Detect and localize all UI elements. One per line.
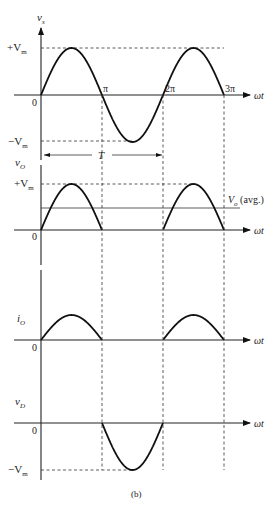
io-zero-label: 0 (32, 342, 37, 353)
panel-io: iO 0 ωt (14, 270, 264, 400)
half-wave-rectifier-waveforms: vs +Vm −Vm 0 π 2π 3π ωt T vO +Vm 0 ωt Vo… (0, 0, 277, 511)
panel-vs: vs +Vm −Vm 0 π 2π 3π ωt (7, 11, 264, 160)
panel-vd: vD 0 −Vm ωt (8, 395, 264, 480)
period-marker: T (44, 149, 162, 161)
io-current-wave (41, 315, 224, 340)
vd-ylabel: vD (15, 395, 25, 410)
vs-zero-label: 0 (32, 97, 37, 108)
vo-zero-label: 0 (32, 231, 37, 242)
vd-diode-voltage-wave (102, 423, 163, 470)
vs-x-axis-label: ωt (254, 90, 264, 101)
vs-minus-vm-label: −Vm (8, 135, 28, 150)
vs-ylabel: vs (37, 11, 45, 26)
vd-x-axis-label: ωt (254, 418, 264, 429)
vs-tick-pi: π (103, 83, 108, 94)
vo-plus-vm-label: +Vm (14, 177, 34, 192)
panel-vo: vO +Vm 0 ωt Vo (avg.) (14, 156, 264, 265)
vo-ylabel: vO (15, 156, 25, 171)
vd-zero-label: 0 (32, 425, 37, 436)
figure-caption: (b) (131, 489, 142, 499)
vs-plus-vm-label: +Vm (7, 41, 27, 56)
vs-tick-3pi: 3π (225, 83, 235, 94)
io-x-axis-label: ωt (254, 335, 264, 346)
vo-x-axis-label: ωt (254, 225, 264, 236)
vo-rectified-wave (41, 184, 224, 230)
io-ylabel: iO (17, 312, 25, 327)
period-label: T (98, 149, 105, 161)
vo-average-label: Vo (avg.) (228, 194, 264, 208)
vd-minus-vm-label: −Vm (8, 463, 28, 478)
